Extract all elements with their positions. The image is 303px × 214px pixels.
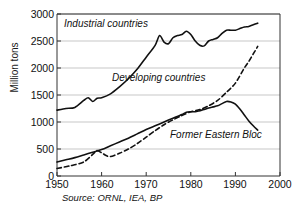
x-tick-1990: 1990 (215, 178, 255, 190)
x-axis-tick-labels: 1950 1960 1970 1980 1990 2000 (0, 0, 303, 214)
series-label-eastern: Former Eastern Bloc (170, 129, 262, 140)
chart-container: Million tons 3000 2500 2000 1500 1000 50… (0, 0, 303, 214)
x-tick-1960: 1960 (82, 178, 122, 190)
x-tick-1950: 1950 (37, 178, 77, 190)
series-label-industrial: Industrial countries (64, 18, 148, 29)
x-tick-2000: 2000 (260, 178, 300, 190)
x-tick-1980: 1980 (171, 178, 211, 190)
source-note: Source: ORNL, IEA, BP (62, 192, 162, 203)
x-tick-1970: 1970 (126, 178, 166, 190)
series-label-developing: Developing countries (112, 72, 205, 83)
